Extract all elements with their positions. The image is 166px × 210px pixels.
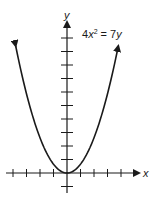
x-axis-label: x: [142, 167, 149, 179]
y-axis-label: y: [63, 9, 71, 21]
equation-rest: = 7: [98, 28, 117, 40]
parabola-graph: x y 4x2 = 7y: [0, 0, 166, 210]
y-axis: [61, 22, 73, 193]
equation-var-y: y: [115, 28, 123, 40]
equation-label: 4x2 = 7y: [82, 28, 123, 40]
x-axis: [6, 169, 139, 177]
